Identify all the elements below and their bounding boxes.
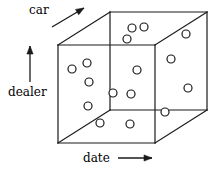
data-point-marker xyxy=(167,55,175,63)
data-points-group xyxy=(68,23,192,128)
data-point-marker xyxy=(127,90,135,98)
data-point-marker xyxy=(128,24,136,32)
data-cube-figure: car dealer date xyxy=(0,0,221,174)
data-point-marker xyxy=(68,65,76,73)
data-point-marker xyxy=(182,30,190,38)
data-point-marker xyxy=(123,35,131,43)
cube-edge-depth-top-right xyxy=(155,12,207,45)
axis-label-date: date xyxy=(83,152,110,164)
data-point-marker xyxy=(184,84,192,92)
data-point-marker xyxy=(83,59,91,67)
axis-arrow-head-dealer xyxy=(27,46,33,54)
axis-label-car: car xyxy=(29,4,49,16)
data-point-marker xyxy=(133,66,141,74)
data-point-marker xyxy=(161,108,169,116)
data-point-marker xyxy=(126,120,134,128)
data-point-marker xyxy=(85,78,93,86)
axis-arrow-head-date xyxy=(144,155,152,161)
data-point-marker xyxy=(84,102,92,110)
axis-arrow-head-car xyxy=(76,8,84,15)
cube-edge-depth-top-left xyxy=(58,12,110,45)
data-point-marker xyxy=(96,119,104,127)
axis-label-dealer: dealer xyxy=(8,86,47,98)
data-point-marker xyxy=(109,89,117,97)
data-point-marker xyxy=(140,23,148,31)
